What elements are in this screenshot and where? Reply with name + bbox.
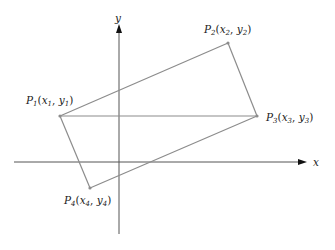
- vertex-p2: [226, 41, 229, 44]
- label-p1: P1(x1, y1): [25, 94, 73, 108]
- x-axis-label: x: [313, 156, 319, 168]
- coordinate-diagram: x y P1(x1, y1) P2(x2, y2) P3(x3, y3) P4(…: [0, 0, 335, 250]
- edge-p2-p3: [228, 43, 257, 116]
- edge-p1-p2: [60, 43, 228, 116]
- x-axis-arrow-icon: [298, 159, 307, 165]
- label-p3: P3(x3, y3): [265, 111, 313, 125]
- label-p4: P4(x4, y4): [63, 194, 111, 208]
- rectangle: [60, 43, 257, 188]
- y-axis-label: y: [114, 12, 122, 24]
- y-axis-arrow-icon: [116, 24, 122, 33]
- vertex-p3: [255, 114, 258, 117]
- label-p2: P2(x2, y2): [203, 23, 251, 37]
- edge-p4-p1: [60, 116, 90, 188]
- vertex-p4: [88, 186, 91, 189]
- edge-p3-p4: [90, 116, 257, 188]
- vertex-p1: [58, 114, 61, 117]
